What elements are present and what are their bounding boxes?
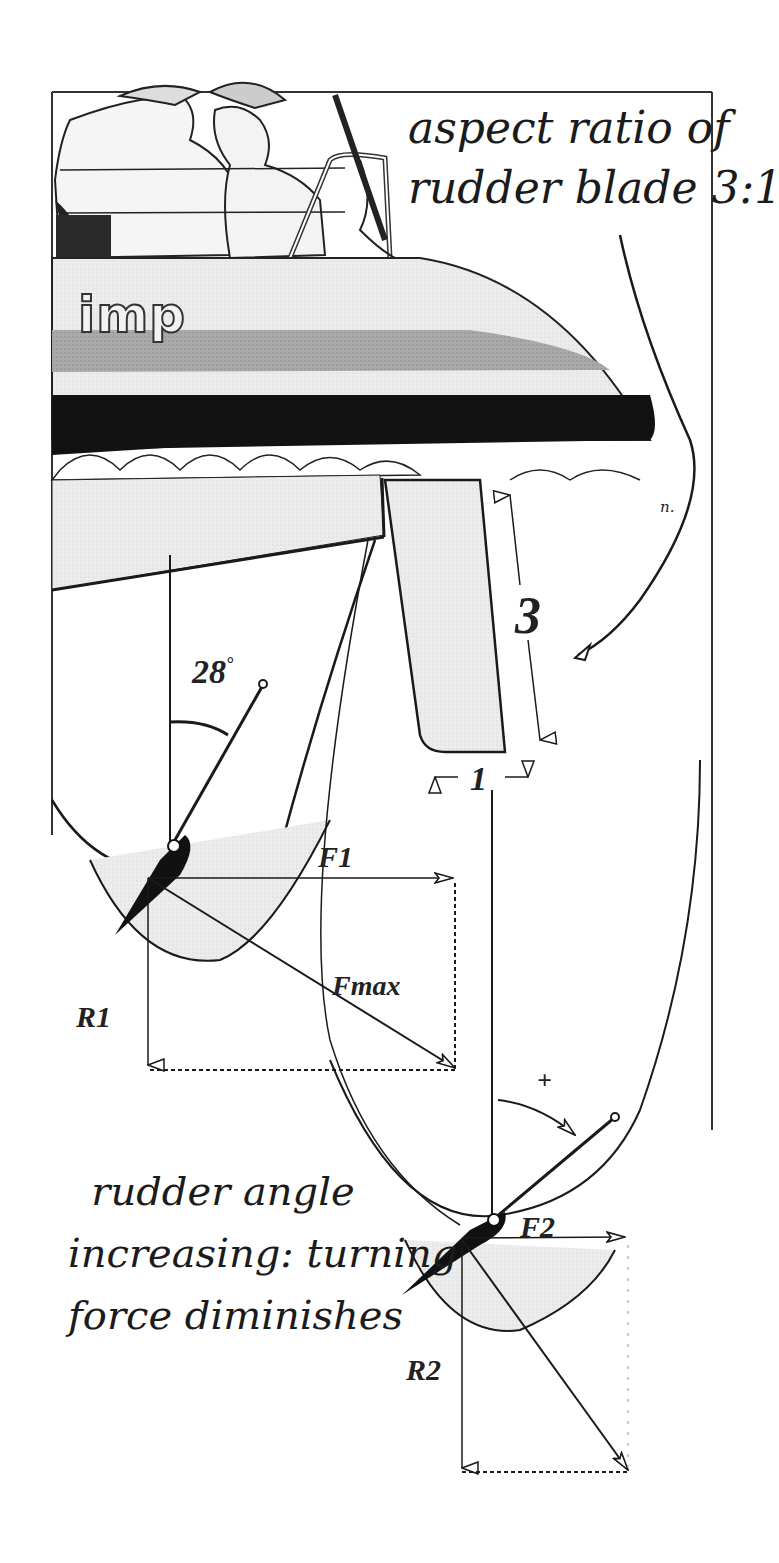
caption-bottom-line-1: rudder angle	[68, 1160, 378, 1222]
rudder-chord-label: 1	[470, 762, 487, 796]
caption-bottom-line-2: increasing: turning	[68, 1222, 378, 1284]
total-force-max-label: Fmax	[332, 972, 400, 1000]
caption-aspect-ratio: aspect ratio of rudder blade 3:1	[408, 98, 779, 218]
turning-force-1-label: F1	[318, 842, 353, 872]
rudder-blade	[385, 480, 505, 752]
turning-force-2-label: F2	[520, 1212, 555, 1242]
drag-force-1-label: R1	[76, 1002, 111, 1032]
rudder-height-label: 3	[515, 590, 541, 642]
caption-bottom-line-3: force diminishes	[68, 1284, 378, 1346]
increase-plus-icon: +	[537, 1068, 552, 1094]
rudder-angle-label: 28°	[192, 655, 233, 689]
rudder-angle-value: 28	[192, 653, 226, 690]
caption-top-line-2: rudder blade 3:1	[408, 158, 779, 218]
caption-rudder-angle: rudder angle increasing: turning force d…	[68, 1160, 378, 1346]
crew-sketch	[55, 83, 395, 258]
caption-top-line-1: aspect ratio of	[408, 98, 779, 158]
pointer-arrow	[578, 235, 694, 655]
rudder-state-2	[330, 760, 700, 1472]
artist-signature: n.	[660, 500, 674, 515]
drag-force-2-label: R2	[406, 1355, 441, 1385]
boat-name-label: imp	[78, 290, 186, 340]
rudder-angle-unit: °	[226, 654, 233, 674]
